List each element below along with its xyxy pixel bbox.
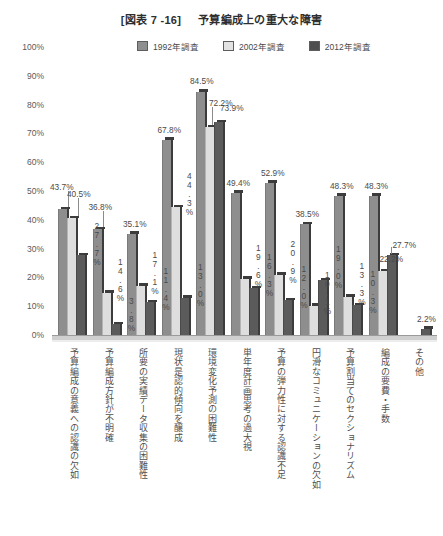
bar-slot [214, 47, 223, 335]
bar[interactable] [111, 324, 120, 335]
y-axis-tick-50: 50% [27, 186, 44, 196]
label-leader-line [391, 247, 392, 254]
y-axis-tick-20: 20% [27, 272, 44, 282]
bar[interactable] [231, 193, 240, 335]
bar-value-label: 84.5% [190, 77, 214, 85]
y-axis: 0%10%20%30%40%50%60%70%80%90%100% [0, 47, 48, 335]
bar-value-label: 12.0% [299, 264, 307, 309]
bar-slot [231, 47, 240, 335]
x-axis-category-labels: 予算編成の意義への認識の欠如予算編成方針が不明確所要の実績データ収集の困難性現状… [52, 348, 437, 533]
y-axis-tick-30: 30% [27, 244, 44, 254]
plot-area: 43.7%36.8%35.1%67.8%84.5%49.4%52.9%38.5%… [52, 47, 437, 335]
bar-slot [136, 47, 145, 335]
x-axis-label-7: 予算の弾力性に対する認識不足 [276, 348, 286, 528]
bar-value-label: 2.2% [417, 315, 436, 323]
label-leader-line [78, 198, 79, 216]
bar[interactable] [352, 305, 361, 335]
bar-slot [249, 47, 258, 335]
y-axis-tick-90: 90% [27, 71, 44, 81]
bar[interactable] [249, 288, 258, 335]
bar-slot [205, 47, 214, 335]
x-axis-label-10: 編成の要費・手数 [380, 348, 390, 528]
bar-value-label: 16.3% [265, 252, 273, 297]
bar[interactable] [136, 286, 145, 335]
bar[interactable] [102, 293, 111, 335]
bar-value-label: 17.1% [150, 250, 158, 295]
y-axis-tick-0: 0% [32, 330, 44, 340]
bar[interactable] [240, 279, 249, 335]
x-axis-label-4: 現状是認的傾向を醸成 [173, 348, 183, 528]
bar-value-label: 73.9% [220, 104, 244, 112]
chart-container: [図表 7 -16] 予算編成上の重大な障害 1992年調査2002年調査201… [0, 0, 443, 536]
bar-value-label: 13.3% [357, 261, 365, 306]
bar-value-label: 49.4% [227, 179, 251, 187]
bar[interactable] [180, 298, 189, 335]
bar-slot [127, 47, 136, 335]
bar-slot [334, 47, 343, 335]
bar[interactable] [283, 300, 292, 335]
bar-slot [274, 47, 283, 335]
x-axis-label-9: 予算割当てのセクショナリズム [345, 348, 355, 528]
bar-value-label: 10.3% [368, 269, 376, 314]
x-axis-label-6: 単年度計画思考の過大視 [242, 348, 252, 528]
bar[interactable] [205, 127, 214, 335]
page-title: [図表 7 -16] 予算編成上の重大な障害 [0, 11, 443, 27]
bar-slot [240, 47, 249, 335]
bar-value-label: 48.3% [365, 182, 389, 190]
figure-title-text: 予算編成上の重大な障害 [198, 14, 322, 26]
bar-value-label: 19.6% [254, 243, 262, 288]
bar-group [403, 47, 430, 335]
x-axis-label-8: 円滑なコミュニケーションの欠如 [311, 348, 321, 528]
bar-value-label: 27.7% [92, 221, 100, 266]
bar-value-label: 36.8% [89, 203, 113, 211]
y-axis-tick-40: 40% [27, 215, 44, 225]
bar-value-label: 20.9% [288, 239, 296, 284]
bar[interactable] [214, 122, 223, 335]
x-axis-label-2: 予算編成方針が不明確 [104, 348, 114, 528]
label-leader-line [212, 107, 213, 125]
bar-slot [171, 47, 180, 335]
bar-slot [102, 47, 111, 335]
bar-slot [412, 47, 421, 335]
bar-slot [378, 47, 387, 335]
bar-value-label: 3.8% [127, 296, 135, 332]
bar[interactable] [67, 218, 76, 335]
bar-value-label: 10.1% [323, 270, 331, 315]
bar-value-label: 22.2% [380, 255, 404, 263]
bar[interactable] [145, 302, 154, 335]
bar-value-label: 11.4% [161, 266, 169, 311]
bar-value-label: 67.8% [158, 126, 182, 134]
bar[interactable] [76, 255, 85, 335]
bar-slot [343, 47, 352, 335]
figure-code: [図表 7 -16] [121, 14, 181, 26]
bar[interactable] [58, 209, 67, 335]
bar[interactable] [387, 255, 396, 335]
bar[interactable] [309, 306, 318, 335]
x-axis-label-5: 環境変化予測の困難性 [207, 348, 217, 528]
y-axis-tick-80: 80% [27, 100, 44, 110]
bar[interactable] [274, 275, 283, 335]
x-axis-label-3: 所要の実績データ収集の困難性 [138, 348, 148, 528]
bar-slot [93, 47, 102, 335]
bar[interactable] [378, 271, 387, 335]
bar-value-label: 19.0% [334, 244, 342, 289]
bar-value-label: 52.9% [261, 169, 285, 177]
bar-value-label: 35.1% [123, 220, 147, 228]
y-axis-tick-60: 60% [27, 157, 44, 167]
y-axis-tick-70: 70% [27, 128, 44, 138]
bar-slot [421, 47, 430, 335]
bar-value-label: 14.6% [116, 257, 124, 302]
y-axis-tick-10: 10% [27, 301, 44, 311]
bar-value-label: 27.7% [393, 241, 417, 249]
bar-value-label: 44.3% [185, 171, 193, 216]
bar-value-label: 48.3% [330, 182, 354, 190]
y-axis-tick-100: 100% [22, 42, 44, 52]
bar-value-label: 13.0% [196, 262, 204, 307]
label-leader-line [103, 211, 104, 227]
x-axis-label-1: 予算編成の意義への認識の欠如 [69, 348, 79, 528]
bar-slot [387, 47, 396, 335]
bar-group [231, 47, 258, 335]
bar[interactable] [343, 297, 352, 335]
bar-slot [309, 47, 318, 335]
bar[interactable] [171, 207, 180, 335]
